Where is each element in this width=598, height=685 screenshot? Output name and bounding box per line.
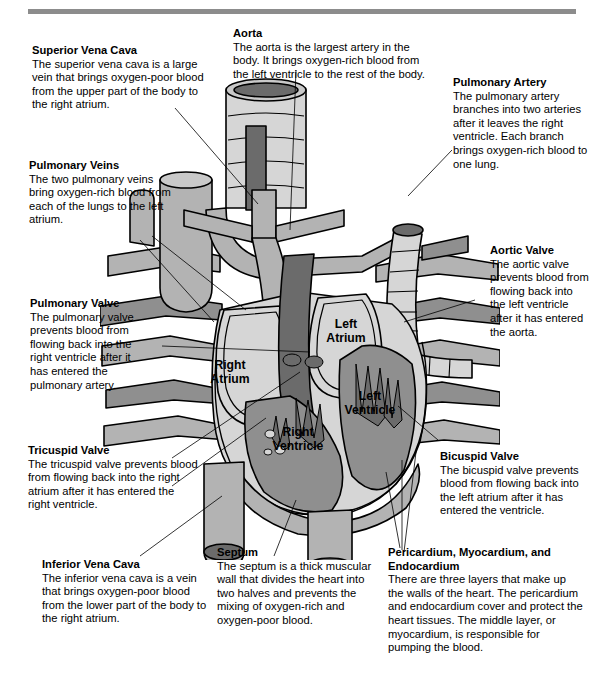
callout-pulmonary-valve: Pulmonary Valve The pulmonary valve prev… (30, 297, 148, 392)
callout-title-aorta: Aorta (233, 27, 429, 41)
callout-body-bicuspid-valve: The bicuspid valve prevents blood from f… (440, 464, 596, 518)
chamber-label-right-ventricle: Right Ventricle (265, 425, 331, 453)
callout-body-septum: The septum is a thick muscular wall that… (217, 560, 379, 628)
left-ventricle-chamber (339, 345, 415, 489)
chamber-label-left-atrium: Left Atrium (318, 317, 374, 345)
callout-pulmonary-artery: Pulmonary Artery The pulmonary artery br… (453, 76, 593, 171)
callout-title-inferior-vena-cava: Inferior Vena Cava (42, 558, 212, 572)
callout-superior-vena-cava: Superior Vena Cava The superior vena cav… (32, 44, 212, 112)
header-divider-rule (28, 9, 576, 14)
callout-pulmonary-veins: Pulmonary Veins The two pulmonary veins … (29, 159, 175, 227)
callout-aorta: Aorta The aorta is the largest artery in… (233, 27, 429, 81)
callout-title-bicuspid-valve: Bicuspid Valve (440, 450, 596, 464)
callout-heart-wall-layers: Pericardium, Myocardium, and Endocardium… (388, 546, 584, 655)
callout-septum: Septum The septum is a thick muscular wa… (217, 546, 379, 628)
chamber-label-right-atrium: Right Atrium (199, 358, 261, 386)
callout-body-pulmonary-artery: The pulmonary artery branches into two a… (453, 90, 593, 172)
callout-body-heart-wall-layers: There are three layers that make up the … (388, 573, 584, 655)
callout-bicuspid-valve: Bicuspid Valve The bicuspid valve preven… (440, 450, 596, 518)
aorta-vessel (206, 79, 400, 278)
callout-body-aortic-valve: The aortic valve prevents blood from flo… (490, 258, 590, 340)
callout-inferior-vena-cava: Inferior Vena Cava The inferior vena cav… (42, 558, 212, 626)
callout-body-pulmonary-valve: The pulmonary valve prevents blood from … (30, 311, 148, 393)
callout-title-pulmonary-artery: Pulmonary Artery (453, 76, 593, 90)
callout-body-tricuspid-valve: The tricuspid valve prevents blood from … (28, 458, 198, 512)
callout-title-pulmonary-valve: Pulmonary Valve (30, 297, 148, 311)
callout-title-aortic-valve: Aortic Valve (490, 244, 590, 258)
callout-title-superior-vena-cava: Superior Vena Cava (32, 44, 212, 58)
callout-body-pulmonary-veins: The two pulmonary veins bring oxygen-ric… (29, 173, 175, 227)
callout-aortic-valve: Aortic Valve The aortic valve prevents b… (490, 244, 590, 339)
heart-anatomy-diagram: Superior Vena Cava The superior vena cav… (0, 0, 598, 685)
callout-body-inferior-vena-cava: The inferior vena cava is a vein that br… (42, 572, 212, 626)
callout-body-superior-vena-cava: The superior vena cava is a large vein t… (32, 58, 212, 112)
callout-tricuspid-valve: Tricuspid Valve The tricuspid valve prev… (28, 444, 198, 512)
chamber-label-left-ventricle: Left Ventricle (339, 389, 401, 417)
callout-title-heart-wall-layers: Pericardium, Myocardium, and Endocardium (388, 546, 584, 573)
callout-title-septum: Septum (217, 546, 379, 560)
callout-title-pulmonary-veins: Pulmonary Veins (29, 159, 175, 173)
callout-title-tricuspid-valve: Tricuspid Valve (28, 444, 198, 458)
callout-body-aorta: The aorta is the largest artery in the b… (233, 41, 429, 82)
